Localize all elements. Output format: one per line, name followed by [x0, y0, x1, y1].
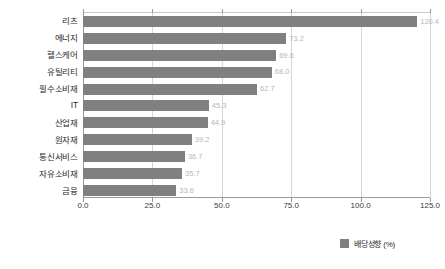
x-axis-tick-label: 0.0 [77, 201, 88, 210]
x-axis-tick-label: 100.0 [351, 201, 371, 210]
axis-tick [83, 9, 84, 13]
bar-value-label: 36.7 [188, 153, 203, 161]
bar-value-label: 68.0 [275, 68, 290, 76]
bar[interactable] [83, 50, 276, 61]
bar[interactable] [83, 100, 209, 111]
legend-label: 배당성향 (%) [354, 238, 395, 249]
bar-value-label: 44.9 [211, 119, 226, 127]
bar-row: 33.6 [83, 182, 430, 199]
y-axis-category-label: IT [71, 97, 78, 114]
legend-swatch-icon [340, 239, 349, 248]
axis-tick [152, 9, 153, 13]
y-axis-category-label: 통신서비스 [39, 147, 78, 164]
plot-area: 120.473.269.668.062.745.344.939.236.735.… [83, 12, 430, 198]
x-axis-tick-labels: 0.025.050.075.0100.0125.0 [83, 201, 430, 215]
bar-value-label: 62.7 [260, 85, 275, 93]
y-axis-category-label: 자유소비재 [39, 164, 78, 181]
bar-row: 68.0 [83, 64, 430, 81]
bar[interactable] [83, 134, 192, 145]
bar[interactable] [83, 84, 257, 95]
y-axis-category-label: 리츠 [62, 12, 78, 29]
bar[interactable] [83, 67, 272, 78]
bar-row: 39.2 [83, 131, 430, 148]
bar-rows: 120.473.269.668.062.745.344.939.236.735.… [83, 13, 430, 197]
y-axis-category-label: 유틸리티 [47, 63, 78, 80]
axis-tick [430, 9, 431, 13]
bar-value-label: 73.2 [289, 35, 304, 43]
y-axis-category-label: 원자재 [55, 130, 78, 147]
bar-value-label: 69.6 [279, 52, 294, 60]
x-axis-tick-label: 50.0 [214, 201, 230, 210]
bar-value-label: 39.2 [195, 136, 210, 144]
x-axis-tick-label: 25.0 [145, 201, 161, 210]
y-axis-category-label: 에너지 [55, 29, 78, 46]
bar-row: 36.7 [83, 148, 430, 165]
x-axis-tick-label: 75.0 [283, 201, 299, 210]
bar-row: 62.7 [83, 81, 430, 98]
bar-row: 45.3 [83, 98, 430, 115]
bar-value-label: 33.6 [179, 187, 194, 195]
bar[interactable] [83, 168, 182, 179]
gridline [430, 13, 431, 197]
y-axis-category-label: 필수소비재 [39, 80, 78, 97]
bar-chart: 리츠에너지헬스케어유틸리티필수소비재IT산업재원자재통신서비스자유소비재금융 1… [0, 0, 445, 269]
bar[interactable] [83, 185, 176, 196]
y-axis-category-labels: 리츠에너지헬스케어유틸리티필수소비재IT산업재원자재통신서비스자유소비재금융 [0, 12, 78, 198]
bar-value-label: 35.7 [185, 170, 200, 178]
y-axis-category-label: 산업재 [55, 113, 78, 130]
bar-row: 120.4 [83, 13, 430, 30]
y-axis-category-label: 금융 [62, 181, 78, 198]
bar-value-label: 120.4 [420, 18, 439, 26]
bar-row: 69.6 [83, 47, 430, 64]
bar-row: 44.9 [83, 114, 430, 131]
axis-tick [361, 9, 362, 13]
bar[interactable] [83, 151, 185, 162]
bar-row: 73.2 [83, 30, 430, 47]
bar[interactable] [83, 33, 286, 44]
bar[interactable] [83, 16, 417, 27]
bar[interactable] [83, 117, 208, 128]
x-axis-tick-label: 125.0 [420, 201, 440, 210]
bar-value-label: 45.3 [212, 102, 227, 110]
axis-tick [291, 9, 292, 13]
chart-legend: 배당성향 (%) [340, 238, 395, 249]
y-axis-category-label: 헬스케어 [47, 46, 78, 63]
axis-tick [222, 9, 223, 13]
bar-row: 35.7 [83, 165, 430, 182]
